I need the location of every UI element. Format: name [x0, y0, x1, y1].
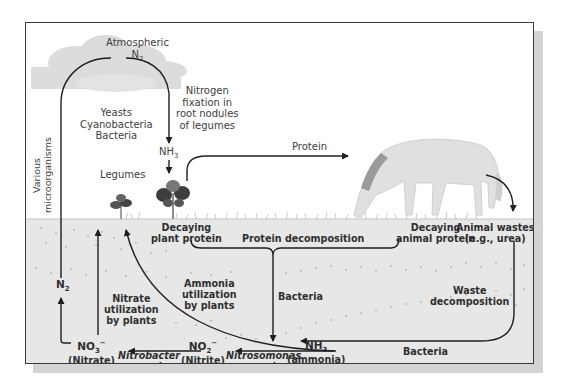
nitrate-utilization-label: Nitrate utilization by plants [104, 293, 159, 326]
no3-to-n2-arrow [61, 298, 71, 343]
waste-decomposition-label: Waste decomposition [430, 285, 509, 307]
nitrobacter-species-label: species [134, 361, 174, 364]
animal-wastes-label: Animal wastes (e.g., urea) [456, 222, 534, 244]
various-microorganisms-label: Various microorganisms [32, 138, 54, 213]
atmospheric-label: Atmospheric N2 [106, 37, 169, 63]
ammonia-utilization-label: Ammonia utilization by plants [182, 278, 237, 311]
n2-soil-label: N2 [56, 278, 70, 293]
legume-plant-large-icon [156, 180, 190, 219]
nh3-ammonia-label: NH3 (ammonia) [287, 339, 345, 364]
no3-nitrate-label: NO3− (Nitrate) [68, 339, 115, 364]
diagram-frame: Atmospheric N2 Nitrogen fixation in root… [25, 22, 534, 364]
horse-icon [354, 139, 502, 218]
protein-arrow [187, 156, 348, 181]
no2-nitrite-label: NO2− (Nitrite) [181, 339, 225, 364]
legume-plant-small-icon [110, 194, 132, 219]
fixation-label: Nitrogen fixation in root nodules of leg… [176, 85, 239, 131]
protein-decomposition-label: Protein decomposition [242, 233, 364, 244]
diagram-graphics [26, 23, 534, 364]
nitrosomonas-species-label: species [248, 361, 288, 364]
nitrobacter-label: Nitrobacter [118, 350, 180, 361]
decaying-plant-protein-label: Decaying plant protein [151, 222, 222, 244]
nh3-fixed-label: NH3 [159, 146, 178, 160]
grass [26, 212, 534, 219]
organisms-label: Yeasts Cyanobacteria Bacteria [80, 107, 153, 142]
protein-label: Protein [292, 141, 327, 153]
bacteria-center-label: Bacteria [278, 291, 323, 302]
bacteria-bottom-label: Bacteria [403, 346, 448, 357]
legumes-label: Legumes [100, 169, 145, 181]
